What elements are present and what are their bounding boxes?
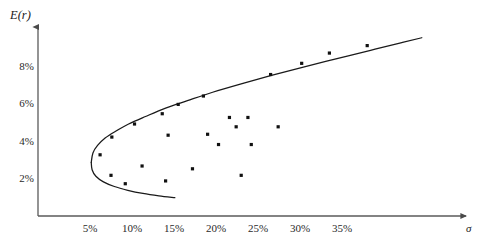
- efficient-frontier-upper: [91, 38, 422, 163]
- data-points: [98, 44, 368, 185]
- y-tick-label: 6%: [4, 97, 34, 109]
- data-point: [235, 125, 238, 128]
- frontier-curves: [91, 38, 422, 198]
- data-point: [240, 174, 243, 177]
- data-point: [202, 94, 205, 97]
- efficient-frontier-chart: E(r) σ 2%4%6%8% 5%10%15%20%25%30%35%: [0, 0, 488, 246]
- frontier-lower: [91, 162, 175, 197]
- data-point: [110, 135, 113, 138]
- plot-area: [0, 0, 488, 246]
- data-point: [109, 174, 112, 177]
- data-point: [206, 133, 209, 136]
- x-tick-label: 15%: [154, 222, 194, 234]
- x-tick-label: 35%: [322, 222, 362, 234]
- data-point: [366, 44, 369, 47]
- x-tick-label: 30%: [280, 222, 320, 234]
- data-point: [246, 116, 249, 119]
- data-point: [133, 122, 136, 125]
- x-tick-label: 10%: [112, 222, 152, 234]
- data-point: [124, 182, 127, 185]
- data-point: [167, 134, 170, 137]
- data-point: [277, 125, 280, 128]
- y-tick-label: 2%: [4, 172, 34, 184]
- y-tick-label: 4%: [4, 135, 34, 147]
- data-point: [164, 179, 167, 182]
- x-tick-label: 5%: [70, 222, 110, 234]
- data-point: [161, 112, 164, 115]
- x-tick-label: 20%: [196, 222, 236, 234]
- data-point: [191, 167, 194, 170]
- data-point: [98, 153, 101, 156]
- y-tick-label: 8%: [4, 60, 34, 72]
- data-point: [140, 164, 143, 167]
- data-point: [228, 116, 231, 119]
- data-point: [269, 73, 272, 76]
- data-point: [177, 103, 180, 106]
- data-point: [300, 62, 303, 65]
- data-point: [217, 143, 220, 146]
- data-point: [328, 51, 331, 54]
- y-axis-title: E(r): [10, 8, 31, 23]
- x-tick-label: 25%: [238, 222, 278, 234]
- data-point: [250, 143, 253, 146]
- axes-group: [38, 27, 466, 216]
- x-axis-title: σ: [466, 222, 471, 234]
